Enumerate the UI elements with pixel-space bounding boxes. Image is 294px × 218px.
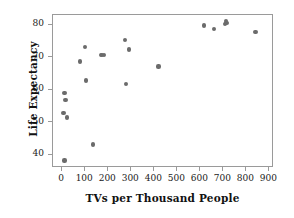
data-point (202, 23, 206, 27)
x-axis-tick (245, 167, 246, 171)
data-point (124, 82, 128, 86)
x-axis-tick (61, 167, 62, 171)
y-axis-tick (48, 89, 52, 90)
data-point (127, 47, 131, 51)
data-point (224, 21, 228, 25)
y-axis-tick (48, 24, 52, 25)
data-point (62, 158, 66, 162)
data-point (212, 27, 216, 31)
x-axis-tick (176, 167, 177, 171)
data-point (62, 91, 66, 95)
data-point (84, 78, 88, 82)
y-axis-tick (48, 154, 52, 155)
x-axis-tick (130, 167, 131, 171)
data-point (253, 30, 257, 34)
x-axis-tick (222, 167, 223, 171)
data-point (63, 98, 67, 102)
x-axis-tick-label: 900 (248, 173, 288, 184)
x-axis-tick (153, 167, 154, 171)
x-axis-tick (268, 167, 269, 171)
data-point (61, 111, 65, 115)
x-axis-tick (107, 167, 108, 171)
data-point (91, 142, 95, 146)
data-point (78, 59, 82, 63)
x-axis-title: TVs per Thousand People (52, 192, 273, 204)
y-axis-tick (48, 121, 52, 122)
plot-area (52, 14, 273, 167)
data-points-layer (53, 15, 272, 166)
data-point (102, 53, 106, 57)
data-point (156, 64, 160, 68)
y-axis-title: Life Expectancy (27, 9, 39, 169)
data-point (83, 45, 87, 49)
x-axis-tick (84, 167, 85, 171)
data-point (123, 38, 127, 42)
x-axis-tick (199, 167, 200, 171)
scatter-chart: 0100200300400500600700800900 4050607080 … (0, 0, 294, 218)
y-axis-tick (48, 56, 52, 57)
data-point (65, 115, 69, 119)
